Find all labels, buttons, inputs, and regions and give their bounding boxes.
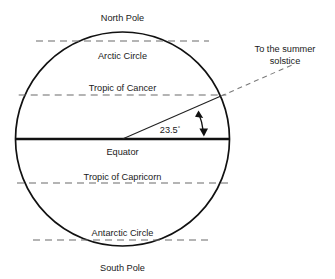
tilt-angle-degree-symbol: ° <box>178 124 181 131</box>
tilt-angle-value: 23.5 <box>160 125 178 135</box>
tilt-ray-dashed-segment <box>221 65 292 96</box>
angle-arrowhead-lower <box>199 128 208 136</box>
label-north-pole: North Pole <box>101 13 144 23</box>
label-tilt-angle: 23.5° <box>160 124 181 135</box>
label-arctic-circle: Arctic Circle <box>98 51 147 61</box>
diagram-canvas: North Pole Arctic Circle Tropic of Cance… <box>0 0 335 279</box>
label-tropic-of-capricorn: Tropic of Capricorn <box>84 172 162 182</box>
label-equator: Equator <box>106 147 138 157</box>
label-solstice-line1: To the summer <box>255 44 316 54</box>
label-south-pole: South Pole <box>100 263 145 273</box>
earth-tilt-diagram: North Pole Arctic Circle Tropic of Cance… <box>0 0 335 279</box>
angle-arrowhead-upper <box>195 111 203 119</box>
label-tropic-of-cancer: Tropic of Cancer <box>89 83 157 93</box>
label-antarctic-circle: Antarctic Circle <box>92 228 154 238</box>
label-solstice-line2: solstice <box>270 56 301 66</box>
